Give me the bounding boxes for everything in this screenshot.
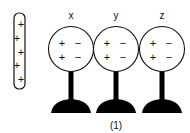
sphere-x-minus-bottom: − xyxy=(75,51,81,63)
sphere-y-plus-bottom: + xyxy=(104,51,110,63)
sphere-z-minus-top: − xyxy=(166,37,172,49)
sphere-z: z + + − − xyxy=(140,10,185,113)
sphere-y: y + + − − xyxy=(94,10,139,113)
rod-charge-4: + xyxy=(14,59,20,71)
stand-x-base xyxy=(51,99,91,113)
stand-z-pole xyxy=(160,70,165,104)
sphere-z-plus-top: + xyxy=(150,37,156,49)
stand-z-base xyxy=(142,99,182,113)
sphere-y-minus-top: − xyxy=(120,37,126,49)
sphere-x: x + + − − xyxy=(49,10,94,113)
sphere-y-minus-bottom: − xyxy=(120,51,126,63)
electrostatics-diagram: + + + + + x + + − − y + + − − z + + − − xyxy=(0,0,190,133)
sphere-x-plus-bottom: + xyxy=(59,51,65,63)
rod-charge-2: + xyxy=(14,32,20,44)
rod-charge-3: + xyxy=(18,46,24,58)
sphere-y-plus-top: + xyxy=(104,37,110,49)
rod-charge-5: + xyxy=(18,73,24,85)
sphere-z-label: z xyxy=(160,10,165,21)
sphere-x-minus-top: − xyxy=(75,37,81,49)
sphere-z-plus-bottom: + xyxy=(150,51,156,63)
stand-y-pole xyxy=(114,70,119,104)
charged-rod: + + + + + xyxy=(14,13,25,89)
sphere-z-minus-bottom: − xyxy=(166,51,172,63)
sphere-x-label: x xyxy=(69,10,74,21)
rod-charge-1: + xyxy=(18,18,24,30)
stand-x-pole xyxy=(69,70,74,104)
sphere-x-plus-top: + xyxy=(59,37,65,49)
sphere-y-label: y xyxy=(114,10,119,21)
figure-caption: (1) xyxy=(110,120,122,131)
stand-y-base xyxy=(96,99,136,113)
